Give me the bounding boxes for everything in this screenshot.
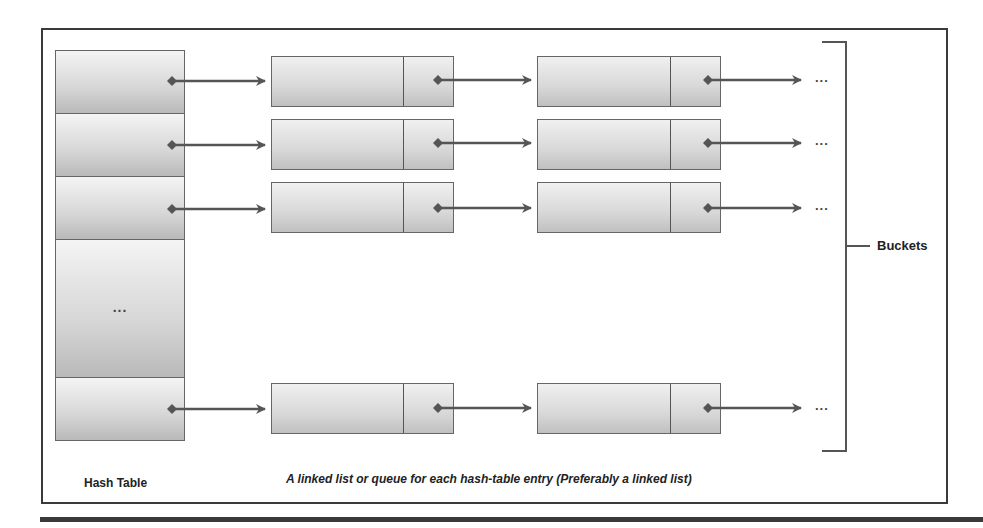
arrows-layer xyxy=(0,0,983,528)
pointer-dot xyxy=(433,403,443,413)
hash-table-label: Hash Table xyxy=(84,476,147,490)
pointer-dot xyxy=(167,76,177,86)
pointer-dot xyxy=(703,138,713,148)
diagram-caption: A linked list or queue for each hash-tab… xyxy=(286,472,692,486)
pointer-dot xyxy=(433,138,443,148)
buckets-label: Buckets xyxy=(877,238,928,253)
pointer-dot xyxy=(433,75,443,85)
pointer-dot xyxy=(703,203,713,213)
chain-continuation: ... xyxy=(815,398,829,413)
pointer-dot xyxy=(703,403,713,413)
buckets-bracket xyxy=(822,42,870,451)
pointer-dot xyxy=(167,140,177,150)
pointer-dot xyxy=(703,75,713,85)
chain-continuation: ... xyxy=(815,70,829,85)
chain-continuation: ... xyxy=(815,133,829,148)
pointer-dot xyxy=(167,404,177,414)
separator-bar xyxy=(40,517,983,522)
chain-continuation: ... xyxy=(815,198,829,213)
pointer-dot xyxy=(167,204,177,214)
pointer-dot xyxy=(433,203,443,213)
